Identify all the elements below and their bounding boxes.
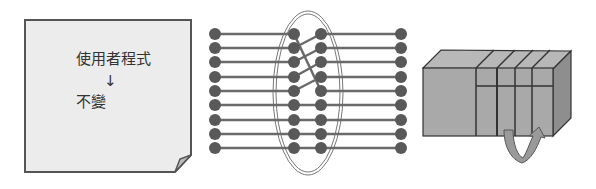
paper-note	[25, 20, 191, 172]
highlight-oval-outer	[273, 11, 343, 175]
program-label: 使用者程式	[76, 50, 151, 68]
down-arrow-icon: ↓	[104, 72, 117, 90]
unchanged-label: 不變	[76, 93, 106, 111]
hardware-module-box	[423, 50, 571, 136]
paper-sheet	[25, 20, 191, 172]
wires	[215, 34, 401, 148]
box-front-face	[423, 68, 553, 136]
wiring-panel	[209, 11, 407, 175]
box-top-face	[423, 50, 571, 69]
